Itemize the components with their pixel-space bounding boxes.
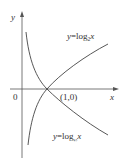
log-functions-chart: y x 0 (1,0) y=log2x y=log½x bbox=[0, 0, 126, 168]
x-axis bbox=[10, 87, 119, 91]
curve-log2-label: y=log2x bbox=[66, 31, 94, 42]
y-axis-arrow-icon bbox=[20, 11, 24, 17]
x-axis-arrow-icon bbox=[113, 87, 119, 91]
origin-label: 0 bbox=[13, 92, 18, 102]
curve-log-half-label-eq: =log bbox=[57, 131, 74, 141]
curve-log-half bbox=[26, 32, 108, 135]
curve-log2-label-suffix: x bbox=[89, 31, 94, 41]
curve-log-half-label-suffix: x bbox=[76, 131, 81, 141]
point-label: (1,0) bbox=[60, 92, 77, 102]
x-axis-label: x bbox=[109, 92, 114, 102]
curve-log2-label-eq: =log bbox=[71, 31, 88, 41]
curve-log-half-label: y=log½x bbox=[52, 131, 81, 143]
y-axis-label: y bbox=[10, 12, 15, 22]
y-axis bbox=[20, 11, 24, 158]
